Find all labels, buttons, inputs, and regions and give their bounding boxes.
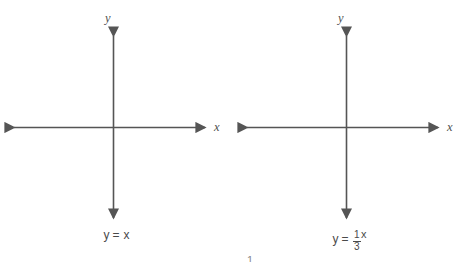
two-coordinate-planes-figure: y x y = x y x y = — [0, 0, 466, 262]
axes-diagram-left — [0, 0, 233, 262]
x-axis-label: x — [214, 121, 220, 134]
fraction-denominator: 3 — [353, 242, 361, 253]
fraction-numerator: 1 — [353, 230, 361, 242]
fraction-one-third: 1 3 — [353, 230, 361, 252]
equation-lhs: y — [332, 233, 338, 246]
equation-caption-left: y = x — [0, 229, 233, 242]
x-axis-label: x — [447, 121, 453, 134]
equation-rhs: x — [124, 229, 130, 242]
equation-rhs: x — [361, 228, 367, 240]
coordinate-plane-panel-left: y x y = x — [0, 0, 233, 262]
equals-sign: = — [341, 233, 348, 246]
clipped-edge-glyph: 1 — [246, 255, 254, 262]
coordinate-plane-panel-right: y x y = 1 3 x — [233, 0, 466, 262]
equation-lhs: y — [103, 229, 109, 242]
y-axis-label: y — [105, 12, 111, 25]
equals-sign: = — [112, 229, 119, 242]
equation-caption-right: y = 1 3 x — [233, 229, 466, 251]
axes-diagram-right — [233, 0, 466, 262]
y-axis-label: y — [338, 12, 344, 25]
